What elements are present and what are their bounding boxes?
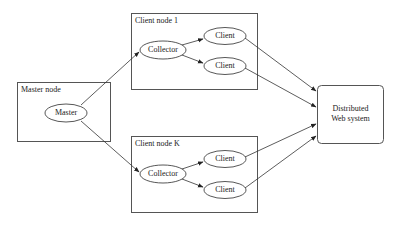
collector-1-label: Collector: [148, 45, 178, 54]
client-node-k-label: Client node K: [135, 139, 180, 148]
client-kb-label: Client: [215, 185, 235, 194]
client-node-k-group: Client node K Collector Client Client: [132, 137, 258, 213]
architecture-diagram: Master node Master Client node 1 Collect…: [0, 0, 403, 226]
master-node-label: Master node: [21, 85, 61, 94]
client-1b-label: Client: [215, 61, 235, 70]
distributed-web-system: Distributed Web system: [318, 86, 384, 144]
master-label: Master: [55, 108, 78, 117]
client-node-1-group: Client node 1 Collector Client Client: [132, 14, 258, 90]
client-1a-label: Client: [215, 31, 235, 40]
client-ka-label: Client: [215, 154, 235, 163]
master-node-group: Master node Master: [18, 83, 111, 142]
client-node-1-label: Client node 1: [135, 16, 178, 25]
target-label-line1: Distributed: [333, 104, 369, 113]
target-label-line2: Web system: [331, 114, 370, 123]
collector-k-label: Collector: [148, 169, 178, 178]
